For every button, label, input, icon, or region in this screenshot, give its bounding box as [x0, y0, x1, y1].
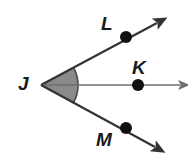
point-dot-l: [120, 31, 132, 43]
point-dot-k: [132, 79, 144, 91]
label-point-l: L: [101, 14, 113, 33]
point-dot-m: [120, 122, 132, 134]
label-point-k: K: [132, 58, 146, 77]
label-point-m: M: [96, 130, 112, 149]
label-point-j: J: [18, 74, 29, 93]
geometry-figure: J L K M: [0, 0, 188, 159]
